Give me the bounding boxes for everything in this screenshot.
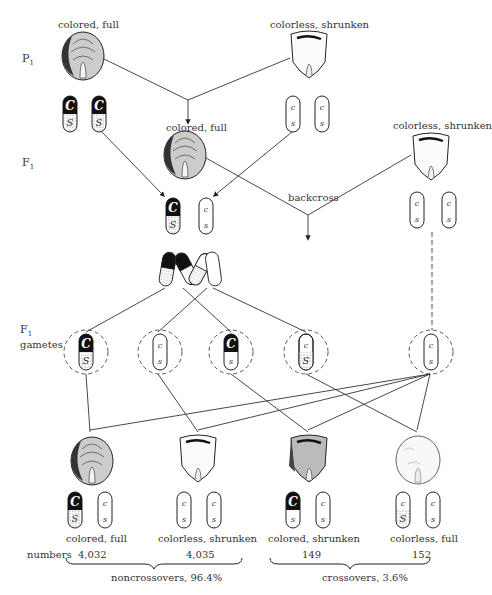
allele-s: s <box>286 515 300 525</box>
allele-s: s <box>199 221 213 231</box>
allele-C: C <box>63 101 77 111</box>
crossover-tetrad <box>158 251 222 288</box>
allele-c: c <box>316 499 330 509</box>
allele-C: C <box>166 203 180 213</box>
allele-C: C <box>286 497 300 507</box>
allele-c: c <box>315 103 329 113</box>
allele-s: s <box>442 215 456 225</box>
allele-c: c <box>199 205 213 215</box>
allele-c: c <box>299 341 313 351</box>
allele-c: c <box>410 199 424 209</box>
allele-S: S <box>79 356 93 366</box>
offspring-label-3: colored, shrunken <box>268 533 360 544</box>
allele-s: s <box>224 357 238 367</box>
allele-c: c <box>396 499 410 509</box>
offspring-colorless-full-kernel <box>396 436 440 484</box>
f1-hybrid-label: colored, full <box>166 122 227 133</box>
crossovers-summary: crossovers, 3.6% <box>322 572 408 583</box>
allele-S: S <box>92 118 106 128</box>
allele-c: c <box>426 499 440 509</box>
generation-f1-gametes-label: F1gametes <box>20 323 63 351</box>
offspring-label-4: colorless, full <box>390 533 458 544</box>
allele-s: s <box>316 515 330 525</box>
allele-c: c <box>442 199 456 209</box>
allele-C: C <box>224 339 238 349</box>
tester-colorless-shrunken-kernel <box>413 133 449 180</box>
backcross-label: backcross <box>288 192 339 203</box>
allele-C: C <box>79 339 93 349</box>
parent-colored-full-kernel <box>62 32 104 80</box>
allele-s: s <box>177 515 191 525</box>
offspring-colored-full-kernel <box>71 437 113 485</box>
offspring-count-4: 152 <box>412 549 431 560</box>
offspring-count-3: 149 <box>302 549 321 560</box>
parent-left-label: colored, full <box>58 19 119 30</box>
allele-s: s <box>410 215 424 225</box>
parent-colorless-shrunken-kernel <box>291 31 327 78</box>
generation-f1-label: F1 <box>22 156 34 171</box>
crossover-brace <box>270 558 430 569</box>
numbers-label: numbers <box>27 549 72 560</box>
generation-p1-label: P1 <box>22 52 34 67</box>
allele-s: s <box>207 515 221 525</box>
offspring-label-2: colorless, shrunken <box>158 533 257 544</box>
offspring-count-1: 4,032 <box>78 549 107 560</box>
offspring-colorless-shrunken-kernel <box>180 435 216 482</box>
allele-S: S <box>166 220 180 230</box>
tester-label: colorless, shrunken <box>393 120 492 131</box>
allele-c: c <box>153 341 167 351</box>
allele-s: s <box>315 119 329 129</box>
allele-S: S <box>396 514 410 524</box>
allele-C: C <box>68 497 82 507</box>
allele-C: C <box>92 101 106 111</box>
allele-c: c <box>424 341 438 351</box>
allele-c: c <box>286 103 300 113</box>
allele-s: s <box>98 515 112 525</box>
allele-c: c <box>98 499 112 509</box>
allele-S: S <box>68 514 82 524</box>
offspring-label-1: colored, full <box>66 533 127 544</box>
noncrossovers-summary: noncrossovers, 96.4% <box>111 572 222 583</box>
offspring-count-2: 4,035 <box>186 549 215 560</box>
f1-colored-full-kernel <box>164 131 206 179</box>
allele-s: s <box>424 357 438 367</box>
allele-c: c <box>177 499 191 509</box>
allele-S: S <box>63 118 77 128</box>
allele-s: s <box>286 119 300 129</box>
parent-right-label: colorless, shrunken <box>270 19 369 30</box>
offspring-colored-shrunken-kernel <box>289 435 327 482</box>
allele-s: s <box>153 357 167 367</box>
allele-s: s <box>426 515 440 525</box>
allele-c: c <box>207 499 221 509</box>
allele-S: S <box>299 356 313 366</box>
